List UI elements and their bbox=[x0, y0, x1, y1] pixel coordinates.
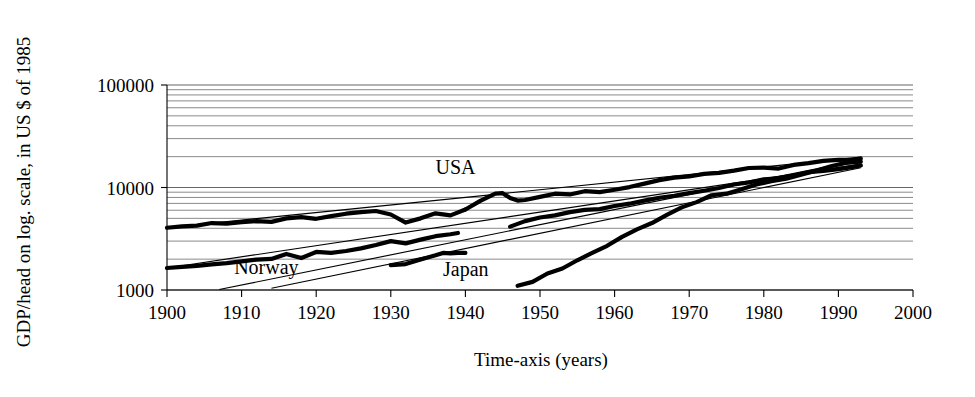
chart-figure: 1000100001000001900191019201930194019501… bbox=[0, 0, 975, 397]
x-tick-label-1980: 1980 bbox=[745, 302, 783, 323]
y-tick-label-1000: 1000 bbox=[116, 280, 154, 301]
series-label-norway: Norway bbox=[234, 256, 298, 279]
x-tick-label-1940: 1940 bbox=[446, 302, 484, 323]
x-tick-label-2000: 2000 bbox=[894, 302, 932, 323]
series-label-usa: USA bbox=[436, 156, 477, 178]
series-line-usa-segment-2 bbox=[465, 158, 860, 209]
x-tick-label-1930: 1930 bbox=[372, 302, 410, 323]
x-tick-label-1920: 1920 bbox=[297, 302, 335, 323]
x-axis-title: Time-axis (years) bbox=[474, 349, 608, 371]
x-tick-label-1960: 1960 bbox=[596, 302, 634, 323]
x-tick-label-1970: 1970 bbox=[670, 302, 708, 323]
gdp-per-head-chart: 1000100001000001900191019201930194019501… bbox=[0, 0, 975, 397]
x-tick-label-1990: 1990 bbox=[819, 302, 857, 323]
y-tick-label-100000: 100000 bbox=[97, 75, 154, 96]
y-axis-title: GDP/head on log. scale, in US $ of 1985 bbox=[13, 37, 34, 347]
y-tick-label-10000: 10000 bbox=[107, 178, 155, 199]
series-label-japan: Japan bbox=[443, 258, 489, 281]
series-line-japan-segment-2 bbox=[518, 162, 861, 286]
x-tick-label-1950: 1950 bbox=[521, 302, 559, 323]
x-tick-label-1910: 1910 bbox=[223, 302, 261, 323]
x-tick-label-1900: 1900 bbox=[148, 302, 186, 323]
